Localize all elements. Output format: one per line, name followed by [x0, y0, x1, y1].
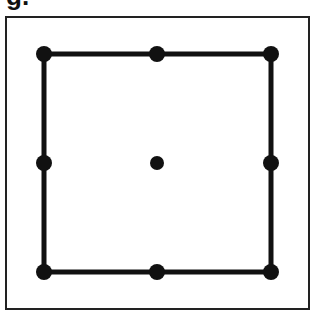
dot-center: [150, 156, 164, 170]
dot-top-left: [36, 46, 52, 62]
diagram-canvas: [0, 0, 318, 313]
dot-middle-right: [263, 155, 279, 171]
dot-bottom-right: [263, 264, 279, 280]
dot-top-middle: [149, 46, 165, 62]
dot-middle-left: [36, 155, 52, 171]
dot-bottom-middle: [149, 264, 165, 280]
dot-bottom-left: [36, 264, 52, 280]
dot-top-right: [263, 46, 279, 62]
dots-group: [36, 46, 279, 280]
